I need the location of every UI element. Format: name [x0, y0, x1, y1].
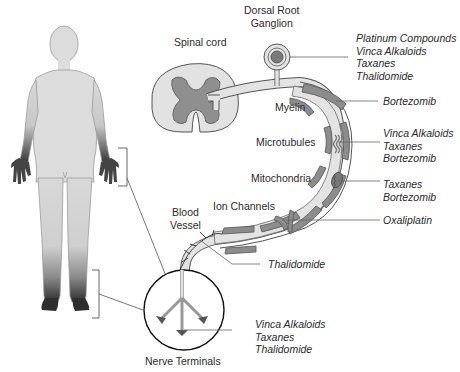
foot-connector-line	[99, 294, 143, 310]
drug-item: Bortezomib	[383, 152, 454, 165]
drug-item: Vinca Alkaloids	[356, 45, 456, 58]
drug-item: Taxanes	[356, 57, 456, 70]
ion-channels-drugs-list: Oxaliplatin	[383, 214, 432, 227]
myelin-drugs-list: Bortezomib	[383, 95, 436, 108]
hand-bracket	[118, 148, 127, 186]
drug-item: Thalidomide	[268, 258, 325, 271]
blood-vessel-label-line1: Blood	[170, 206, 201, 219]
drug-item: Bortezomib	[383, 191, 436, 204]
drug-item: Platinum Compounds	[356, 32, 456, 45]
ion-channels-label: Ion Channels	[213, 200, 275, 213]
drug-item: Taxanes	[255, 331, 326, 344]
drug-item: Taxanes	[383, 178, 436, 191]
nerve-terminals-label: Nerve Terminals	[145, 355, 221, 368]
myelin-label: Myelin	[275, 101, 305, 114]
drg-label-line1: Dorsal Root	[244, 4, 299, 17]
nerve-terminals-drugs-list: Vinca Alkaloids Taxanes Thalidomide	[255, 318, 326, 356]
hand-connector-line	[127, 178, 166, 276]
human-body-figure	[11, 26, 119, 311]
drg-label: Dorsal Root Ganglion	[244, 4, 299, 30]
drug-item: Oxaliplatin	[383, 214, 432, 227]
blood-vessel-label: Blood Vessel	[170, 206, 201, 232]
nerve-terminals-circle	[144, 270, 224, 350]
drug-item: Vinca Alkaloids	[255, 318, 326, 331]
foot-bracket	[92, 270, 99, 318]
blood-vessel-label-line2: Vessel	[170, 219, 201, 232]
spinal-cord-label: Spinal cord	[174, 36, 227, 49]
drug-item: Thalidomide	[356, 70, 456, 83]
microtubules-label: Microtubules	[256, 136, 316, 149]
mitochondria-drugs-list: Taxanes Bortezomib	[383, 178, 436, 203]
blood-vessel-drugs-list: Thalidomide	[268, 258, 325, 271]
mitochondria-label: Mitochondria	[251, 172, 311, 185]
drug-item: Thalidomide	[255, 343, 326, 356]
microtubules-drugs-list: Vinca Alkaloids Taxanes Bortezomib	[383, 127, 454, 165]
drg-drugs-list: Platinum Compounds Vinca Alkaloids Taxan…	[356, 32, 456, 82]
drug-item: Taxanes	[383, 140, 454, 153]
drg-label-line2: Ganglion	[244, 17, 299, 30]
drug-item: Vinca Alkaloids	[383, 127, 454, 140]
drug-item: Bortezomib	[383, 95, 436, 108]
